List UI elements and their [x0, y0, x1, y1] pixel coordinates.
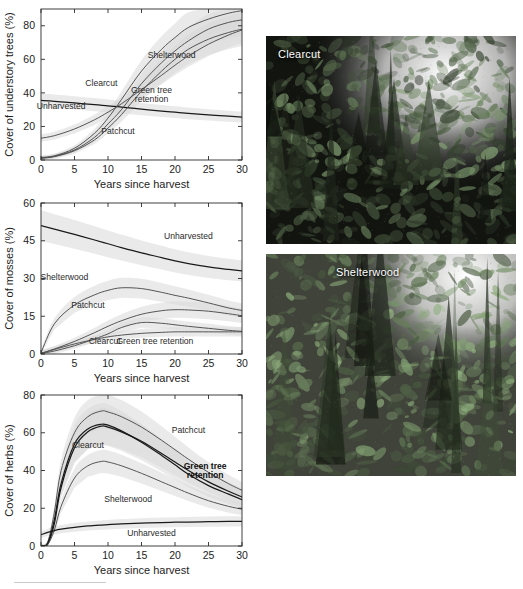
y-tick-label: 60: [23, 197, 35, 209]
y-tick-label: 60: [23, 426, 35, 438]
series-label: Green tree retention: [116, 336, 193, 346]
series-label: Clearcut: [72, 440, 105, 450]
x-tick-label: 10: [102, 549, 114, 561]
chart-mosses-svg: 051015202530015304560Years since harvest…: [0, 194, 255, 386]
series-label: retention: [135, 94, 169, 104]
y-tick-label: 30: [23, 272, 35, 284]
series-label: Patchcut: [71, 300, 105, 310]
x-tick-label: 15: [136, 163, 148, 175]
x-tick-label: 25: [203, 163, 215, 175]
y-tick-label: 45: [23, 234, 35, 246]
x-tick-label: 0: [38, 163, 44, 175]
y-tick-label: 80: [23, 389, 35, 401]
series-label: Shelterwood: [104, 494, 152, 504]
x-tick-label: 30: [236, 163, 248, 175]
clearcut-photo-label: Clearcut: [278, 48, 321, 60]
x-axis-title: Years since harvest: [94, 178, 190, 190]
x-tick-label: 5: [72, 357, 78, 369]
chart-herbs-svg: 051015202530020406080Years since harvest…: [0, 386, 255, 586]
chart-understory-trees: 051015202530020406080Years since harvest…: [0, 0, 255, 195]
shelterwood-photo: Shelterwood: [266, 254, 516, 476]
y-axis-title: Cover of understory trees (%): [3, 12, 15, 156]
y-tick-label: 40: [23, 464, 35, 476]
series-label: Shelterwood: [41, 272, 89, 282]
chart-herbs: 051015202530020406080Years since harvest…: [0, 386, 255, 586]
x-tick-label: 0: [38, 549, 44, 561]
x-tick-label: 15: [136, 357, 148, 369]
x-tick-label: 5: [72, 163, 78, 175]
x-axis-title: Years since harvest: [94, 564, 190, 576]
x-tick-label: 20: [169, 549, 181, 561]
series-label: Clearcut: [85, 78, 118, 88]
y-tick-label: 0: [29, 348, 35, 360]
y-tick-label: 60: [23, 53, 35, 65]
clearcut-photo-image: [266, 36, 516, 244]
series-label: Shelterwood: [148, 50, 196, 60]
y-tick-label: 20: [23, 502, 35, 514]
y-axis-title: Cover of herbs (%): [3, 424, 15, 516]
x-tick-label: 20: [169, 163, 181, 175]
shelterwood-photo-label: Shelterwood: [336, 266, 399, 278]
series-label: Unharvested: [37, 101, 86, 111]
series-label: Unharvested: [164, 231, 213, 241]
x-tick-label: 10: [102, 163, 114, 175]
x-tick-label: 25: [203, 549, 215, 561]
x-tick-label: 10: [102, 357, 114, 369]
x-tick-label: 5: [72, 549, 78, 561]
x-tick-label: 30: [236, 357, 248, 369]
chart-mosses: 051015202530015304560Years since harvest…: [0, 194, 255, 386]
footer-divider: [14, 582, 106, 583]
clearcut-photo: Clearcut: [266, 36, 516, 244]
y-tick-label: 15: [23, 310, 35, 322]
y-axis-title: Cover of mosses (%): [3, 227, 15, 330]
y-tick-label: 40: [23, 87, 35, 99]
series-label: Patchcut: [172, 425, 206, 435]
x-tick-label: 20: [169, 357, 181, 369]
series-label: Patchcut: [101, 126, 135, 136]
shelterwood-photo-image: [266, 254, 516, 476]
y-tick-label: 80: [23, 19, 35, 31]
y-tick-label: 0: [29, 154, 35, 166]
chart-understory-svg: 051015202530020406080Years since harvest…: [0, 0, 255, 195]
series-label: retention: [187, 470, 224, 480]
figure-root: 051015202530020406080Years since harvest…: [0, 0, 523, 589]
x-tick-label: 25: [203, 357, 215, 369]
y-tick-label: 20: [23, 120, 35, 132]
series-label: Unharvested: [127, 528, 176, 538]
y-tick-label: 0: [29, 540, 35, 552]
x-axis-title: Years since harvest: [94, 372, 190, 384]
x-tick-label: 0: [38, 357, 44, 369]
x-tick-label: 15: [136, 549, 148, 561]
x-tick-label: 30: [236, 549, 248, 561]
